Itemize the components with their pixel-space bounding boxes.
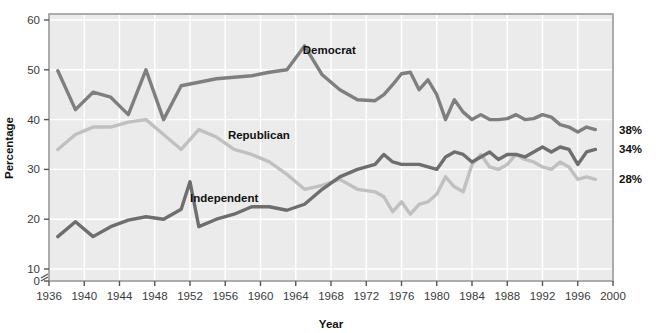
y-tick-label: 60 <box>27 14 40 26</box>
x-tick-label: 1996 <box>565 290 591 302</box>
x-tick-label: 1984 <box>459 290 485 302</box>
series-label-democrat: Democrat <box>303 44 356 56</box>
x-axis-tick-labels: 1936194019441948195219561960196419681972… <box>36 290 626 302</box>
y-tick-label: 0 <box>34 275 40 287</box>
series-label-independent: Independent <box>190 192 259 204</box>
x-tick-label: 1980 <box>424 290 450 302</box>
x-tick-label: 1952 <box>177 290 203 302</box>
end-value-republican: 28% <box>619 173 642 185</box>
x-tick-label: 1940 <box>71 290 97 302</box>
x-tick-label: 1988 <box>494 290 520 302</box>
series-label-republican: Republican <box>228 129 290 141</box>
x-tick-label: 1964 <box>283 290 309 302</box>
x-tick-label: 1972 <box>353 290 379 302</box>
x-tick-label: 1992 <box>530 290 556 302</box>
party-identification-line-chart: 0102030405060 19361940194419481952195619… <box>0 0 665 333</box>
y-tick-label: 40 <box>27 114 40 126</box>
y-tick-label: 10 <box>27 263 40 275</box>
y-axis-title: Percentage <box>3 117 15 179</box>
end-value-democrat: 38% <box>619 124 642 136</box>
x-tick-label: 1944 <box>107 290 133 302</box>
x-tick-label: 1976 <box>389 290 415 302</box>
x-tick-label: 1956 <box>212 290 238 302</box>
y-tick-label: 20 <box>27 213 40 225</box>
x-tick-label: 1968 <box>318 290 344 302</box>
y-tick-label: 30 <box>27 163 40 175</box>
y-tick-label: 50 <box>27 64 40 76</box>
end-value-independent: 34% <box>619 143 642 155</box>
x-tick-label: 2000 <box>600 290 626 302</box>
x-tick-label: 1936 <box>36 290 62 302</box>
chart-canvas: 0102030405060 19361940194419481952195619… <box>0 0 665 333</box>
x-tick-label: 1960 <box>248 290 274 302</box>
x-axis-title: Year <box>319 318 344 330</box>
x-tick-label: 1948 <box>142 290 168 302</box>
